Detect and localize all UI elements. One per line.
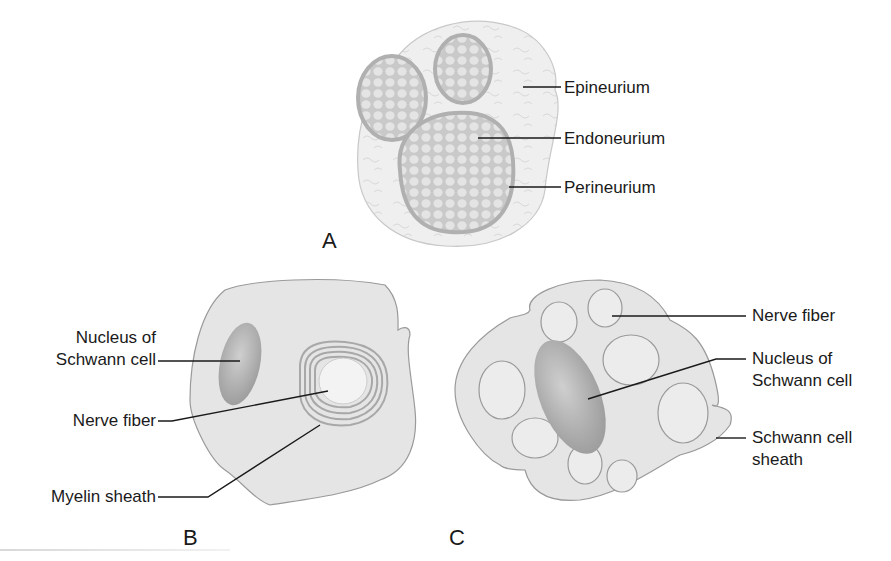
- label-nucleus-schwann-c-line2: Schwann cell: [752, 370, 852, 392]
- panel-c-unmyelinated-fibers: [455, 280, 731, 500]
- fascicle-top: [435, 35, 491, 103]
- label-nerve-fiber-c: Nerve fiber: [752, 305, 835, 327]
- diagram-canvas: [0, 0, 891, 561]
- panel-label-c: C: [449, 525, 465, 551]
- label-nerve-fiber-b: Nerve fiber: [20, 410, 156, 432]
- panel-label-a: A: [322, 228, 337, 254]
- label-nucleus-schwann-c-line1: Nucleus of: [752, 348, 832, 370]
- bottom-divider: [0, 549, 230, 551]
- panel-a-nerve-cross-section: [358, 21, 558, 246]
- label-schwann-sheath-line2: sheath: [752, 449, 803, 471]
- fascicle-large: [400, 113, 514, 233]
- label-perineurium: Perineurium: [564, 177, 656, 199]
- label-epineurium: Epineurium: [564, 77, 650, 99]
- axon-b: [319, 358, 367, 404]
- label-nucleus-schwann-b-line1: Nucleus of: [20, 327, 156, 349]
- panel-b-myelinated-fiber: [190, 280, 416, 505]
- panel-label-b: B: [183, 525, 198, 551]
- label-myelin-sheath: Myelin sheath: [6, 486, 156, 508]
- label-endoneurium: Endoneurium: [564, 128, 665, 150]
- label-nucleus-schwann-b-line2: Schwann cell: [20, 349, 156, 371]
- label-schwann-sheath-line1: Schwann cell: [752, 427, 852, 449]
